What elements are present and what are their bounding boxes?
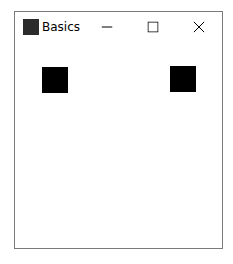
black-square-left xyxy=(42,67,68,93)
window-title: Basics xyxy=(42,19,80,35)
close-button[interactable] xyxy=(176,12,222,42)
app-icon xyxy=(23,19,39,35)
minimize-button[interactable] xyxy=(84,12,130,42)
title-bar[interactable]: Basics xyxy=(15,12,222,42)
maximize-button[interactable] xyxy=(130,12,176,42)
close-icon xyxy=(194,22,205,33)
maximize-icon xyxy=(148,22,159,33)
minimize-icon xyxy=(102,22,113,33)
app-window: Basics xyxy=(14,11,223,249)
black-square-right xyxy=(170,66,196,92)
